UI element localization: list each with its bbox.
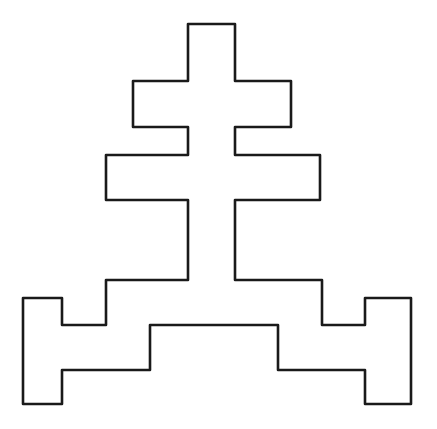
symbol-outline	[23, 24, 411, 404]
figure-canvas: Rectilinear outline symbol: stepped cros…	[0, 0, 437, 429]
stepped-cross-symbol	[0, 0, 437, 429]
